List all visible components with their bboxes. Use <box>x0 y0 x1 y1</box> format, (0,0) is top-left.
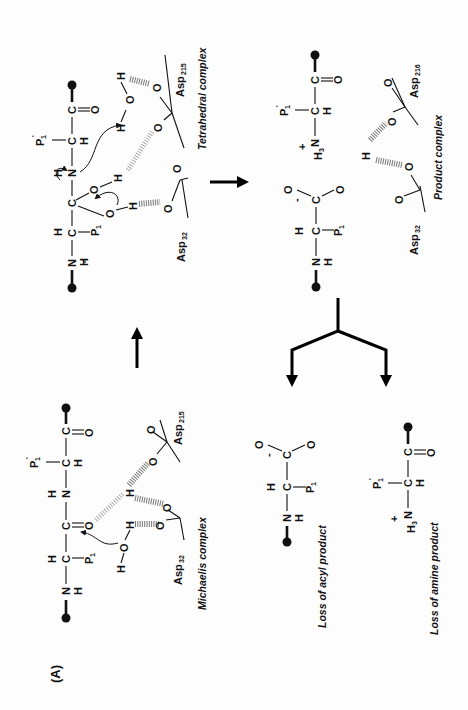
svg-text:O: O <box>124 95 136 104</box>
svg-text:216: 216 <box>414 64 421 76</box>
michaelis-complex: N H C H P 1 C O N H C H P 1 ' C O H O H <box>25 404 208 623</box>
svg-text:H: H <box>321 107 333 115</box>
amine-product: + H 3 N C H P 1 ' C O Loss of amine prod… <box>368 423 440 636</box>
svg-text:3: 3 <box>318 148 325 152</box>
svg-text:O: O <box>403 162 415 171</box>
svg-text:N: N <box>309 139 321 147</box>
svg-text:O: O <box>305 440 317 449</box>
svg-text:H: H <box>78 137 90 145</box>
svg-text:1: 1 <box>95 225 102 229</box>
svg-text:1: 1 <box>40 135 47 139</box>
mechanism-diagram: (A) N H C H P 1 C O O N H <box>0 0 468 710</box>
svg-text:-: - <box>290 198 302 202</box>
tetrahedral-complex: N H C H P 1 C O O N H C H P 1 ' C O H <box>31 47 208 293</box>
svg-text:C: C <box>60 522 72 530</box>
svg-text:H: H <box>115 72 127 80</box>
svg-text:C: C <box>281 483 293 491</box>
reaction-arrows <box>137 182 386 378</box>
svg-text:H: H <box>115 565 127 573</box>
loss-of-amine-label: Loss of amine product <box>428 522 440 635</box>
branch-arrow-icon <box>292 298 386 378</box>
svg-text:O: O <box>161 503 173 512</box>
svg-text:C: C <box>309 76 321 84</box>
svg-text:H: H <box>46 490 58 498</box>
svg-text:C: C <box>402 448 414 456</box>
svg-text:O: O <box>332 75 344 84</box>
acyl-product: N H C H P 1 C - O O Loss of acyl product <box>253 440 328 628</box>
svg-text:-: - <box>262 453 274 457</box>
svg-text:H: H <box>46 555 58 563</box>
svg-text:C: C <box>281 451 293 459</box>
svg-text:O: O <box>425 448 437 457</box>
svg-text:H: H <box>265 483 277 491</box>
svg-text:C: C <box>60 427 72 435</box>
svg-text:H: H <box>52 169 64 177</box>
svg-text:H: H <box>360 152 372 160</box>
svg-text:H: H <box>72 587 84 595</box>
svg-text:O: O <box>89 105 101 114</box>
svg-text:O: O <box>386 117 398 126</box>
svg-text:H: H <box>293 514 305 522</box>
svg-text:C: C <box>60 555 72 563</box>
svg-text:3: 3 <box>411 521 418 525</box>
svg-text:N: N <box>402 511 414 519</box>
svg-text:C: C <box>310 227 322 235</box>
svg-text:H: H <box>124 489 136 497</box>
svg-text:C: C <box>66 137 78 145</box>
svg-text:1: 1 <box>338 225 345 229</box>
svg-text:': ' <box>25 457 32 459</box>
svg-text:O: O <box>334 185 346 194</box>
protease-mechanism-figure: (A) N H C H P 1 C O O N H <box>0 0 468 710</box>
svg-text:H: H <box>405 525 417 533</box>
svg-text:O: O <box>83 428 95 437</box>
svg-text:N: N <box>310 258 322 266</box>
michaelis-complex-label: Michaelis complex <box>196 516 208 610</box>
svg-text:C: C <box>402 479 414 487</box>
svg-text:C: C <box>66 229 78 237</box>
svg-text:O: O <box>151 83 163 92</box>
svg-text:H: H <box>112 174 124 182</box>
svg-text:1: 1 <box>89 553 96 557</box>
svg-text:215: 215 <box>178 411 185 423</box>
svg-text:': ' <box>368 478 375 480</box>
svg-text:O: O <box>282 185 294 194</box>
svg-text:H: H <box>414 479 426 487</box>
svg-text:N: N <box>281 514 293 522</box>
svg-text:O: O <box>104 209 116 218</box>
svg-text:O: O <box>393 195 405 204</box>
svg-text:N: N <box>60 490 72 498</box>
svg-text:32: 32 <box>414 225 421 233</box>
svg-text:O: O <box>88 185 100 194</box>
asp215-label: Asp <box>174 76 186 97</box>
svg-text:+: + <box>296 144 308 150</box>
svg-text:1: 1 <box>310 482 317 486</box>
svg-text:H: H <box>124 521 136 529</box>
svg-text:H: H <box>312 152 324 160</box>
svg-text:C: C <box>309 107 321 115</box>
svg-text:N: N <box>60 587 72 595</box>
svg-text:1: 1 <box>377 478 384 482</box>
asp32-label: Asp <box>175 241 187 262</box>
svg-text:': ' <box>275 105 282 107</box>
svg-text:N: N <box>66 169 78 177</box>
svg-text:O: O <box>253 440 265 449</box>
tetrahedral-complex-label: Tetrahedral complex <box>196 47 208 150</box>
svg-text:O: O <box>118 543 130 552</box>
svg-text:H: H <box>72 459 84 467</box>
svg-text:32: 32 <box>181 232 188 240</box>
svg-text:O: O <box>83 521 95 530</box>
svg-text:C: C <box>310 196 322 204</box>
svg-text:1: 1 <box>34 457 41 461</box>
product-complex-label: Product complex <box>432 114 444 200</box>
svg-text:H: H <box>293 227 305 235</box>
svg-text:N: N <box>66 259 78 267</box>
loss-of-acyl-label: Loss of acyl product <box>316 525 328 628</box>
svg-text:1: 1 <box>284 105 291 109</box>
product-complex: N H C H P 1 C - O O + H 3 N C H P 1 ' C … <box>275 51 444 292</box>
svg-text:32: 32 <box>178 555 185 563</box>
svg-text:O: O <box>152 123 164 132</box>
svg-text:H: H <box>52 228 64 236</box>
svg-text:O: O <box>154 521 166 530</box>
asp32-label: Asp <box>172 564 184 585</box>
svg-text:O: O <box>145 425 157 434</box>
